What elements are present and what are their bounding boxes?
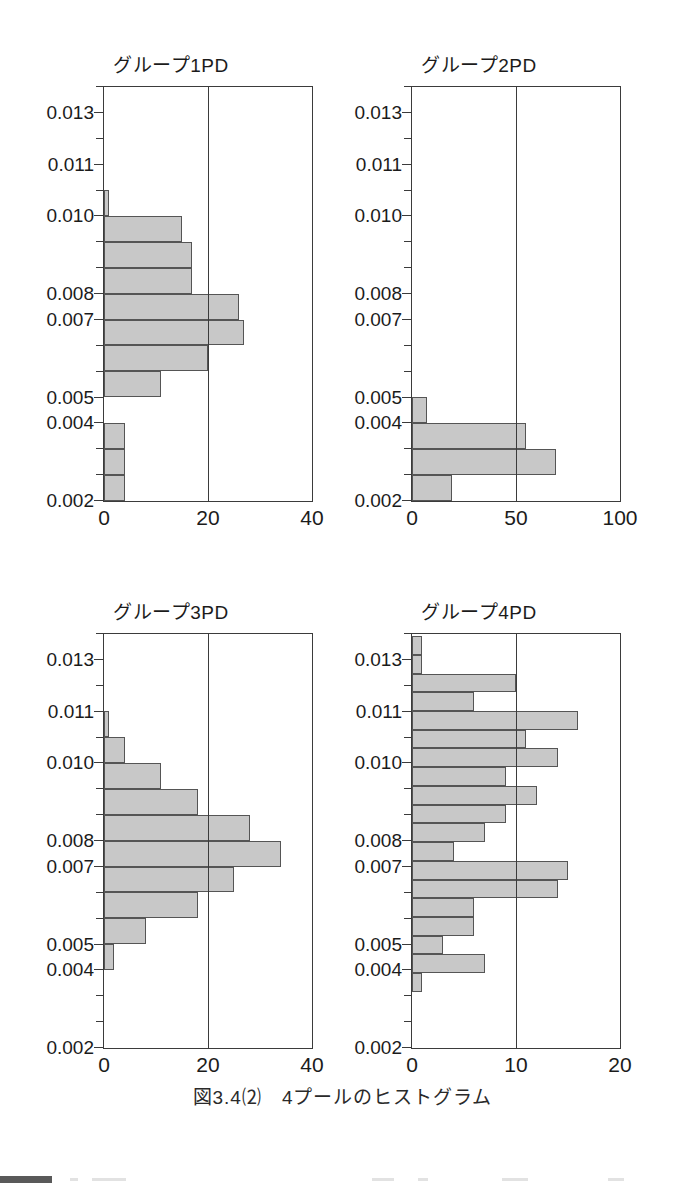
histogram-bar (412, 898, 474, 917)
y-tick-label-0.013: 0.013 (354, 102, 402, 121)
y-tick-mark-major (94, 164, 103, 165)
histogram-bar (412, 786, 537, 805)
y-tick-label-0.008: 0.008 (46, 284, 94, 303)
x-axis-group4: 01020 (411, 1049, 621, 1079)
y-tick-mark (96, 190, 103, 191)
y-tick-label-0.011: 0.011 (356, 701, 402, 720)
histogram-bar (412, 767, 506, 786)
x-tick-label-0: 0 (98, 1054, 110, 1075)
histogram-bar (412, 397, 427, 423)
y-tick-mark (404, 86, 411, 87)
histogram-bar (412, 823, 485, 842)
y-tick-mark (96, 633, 103, 634)
y-tick-label-0.002: 0.002 (354, 1038, 402, 1057)
y-tick-mark-major (402, 397, 411, 398)
histogram-bar (412, 748, 558, 767)
y-tick-mark-major (402, 659, 411, 660)
histogram-bar (412, 973, 422, 992)
histogram-bar (104, 815, 250, 841)
y-tick-mark-major (402, 164, 411, 165)
y-tick-mark-major (402, 969, 411, 970)
x-axis-group2: 050100 (411, 502, 621, 532)
histogram-bar (104, 867, 234, 893)
x-tick-label-0: 0 (406, 507, 418, 528)
x-axis-group1: 02040 (103, 502, 313, 532)
y-tick-label-0.010: 0.010 (46, 753, 94, 772)
y-tick-mark-major (402, 762, 411, 763)
y-tick-mark (404, 448, 411, 449)
plot-area-group4: 01020 0.0020.0040.0050.0070.0080.0100.01… (411, 633, 621, 1049)
gridline-x-20 (208, 86, 209, 502)
plot-area-group3: 02040 0.0020.0040.0050.0070.0080.0100.01… (103, 633, 313, 1049)
histogram-bar (412, 954, 485, 973)
y-tick-mark (96, 995, 103, 996)
y-tick-mark (96, 371, 103, 372)
y-tick-label-0.007: 0.007 (354, 856, 402, 875)
y-tick-mark (404, 474, 411, 475)
histogram-bar (412, 475, 452, 501)
histogram-bar (412, 842, 454, 861)
y-tick-mark (96, 267, 103, 268)
y-tick-label-0.010: 0.010 (354, 206, 402, 225)
y-tick-mark (404, 267, 411, 268)
histogram-bar (412, 636, 422, 655)
histogram-bar (104, 190, 109, 216)
y-tick-label-0.005: 0.005 (354, 934, 402, 953)
y-tick-mark-major (94, 969, 103, 970)
histogram-bar (104, 763, 161, 789)
y-tick-label-0.004: 0.004 (354, 960, 402, 979)
y-tick-label-0.004: 0.004 (46, 413, 94, 432)
histogram-bar (412, 711, 578, 730)
y-tick-label-0.011: 0.011 (48, 701, 94, 720)
histogram-bar (412, 423, 526, 449)
y-tick-mark-major (402, 944, 411, 945)
histogram-bar (104, 345, 208, 371)
y-tick-mark (96, 241, 103, 242)
x-tick-label-20: 20 (196, 507, 219, 528)
y-tick-mark (96, 685, 103, 686)
histogram-bar (104, 320, 244, 346)
y-tick-label-0.013: 0.013 (354, 649, 402, 668)
y-tick-mark-major (94, 762, 103, 763)
histogram-bar (104, 944, 114, 970)
y-tick-mark (404, 345, 411, 346)
gridline-x-50 (516, 86, 517, 502)
y-tick-label-0.005: 0.005 (354, 387, 402, 406)
y-tick-mark (404, 788, 411, 789)
histogram-bar (412, 861, 568, 880)
plot-area-group1: 02040 0.0020.0040.0050.0070.0080.0100.01… (103, 86, 313, 502)
y-tick-label-0.005: 0.005 (46, 387, 94, 406)
y-tick-label-0.005: 0.005 (46, 934, 94, 953)
y-tick-mark (96, 448, 103, 449)
y-tick-label-0.010: 0.010 (46, 206, 94, 225)
figure-caption: 図3.4⑵ 4プールのヒストグラム (0, 1082, 685, 1109)
y-tick-mark (96, 892, 103, 893)
y-tick-mark-major (402, 711, 411, 712)
y-tick-mark-major (402, 215, 411, 216)
y-tick-label-0.008: 0.008 (354, 831, 402, 850)
histogram-bar (104, 918, 146, 944)
y-tick-label-0.013: 0.013 (46, 649, 94, 668)
x-tick-label-0: 0 (98, 507, 110, 528)
y-tick-mark (96, 814, 103, 815)
y-tick-mark (96, 788, 103, 789)
histogram-bar (412, 655, 422, 674)
y-tick-mark-major (94, 944, 103, 945)
panel-title-group4: グループ4PD (308, 597, 650, 624)
histogram-bar (104, 371, 161, 397)
y-tick-mark-major (402, 840, 411, 841)
scan-smudge (92, 1178, 126, 1181)
histogram-bar (104, 789, 198, 815)
panel-title-group1: グループ1PD (0, 50, 342, 77)
histogram-bar (412, 449, 556, 475)
gridline-x-10 (516, 633, 517, 1049)
x-tick-label-0: 0 (406, 1054, 418, 1075)
histogram-bar (412, 674, 516, 693)
histogram-bar (104, 711, 109, 737)
histogram-bar (412, 730, 526, 749)
y-tick-label-0.007: 0.007 (46, 856, 94, 875)
y-tick-mark-major (94, 319, 103, 320)
y-tick-mark (404, 1021, 411, 1022)
y-tick-label-0.002: 0.002 (46, 1038, 94, 1057)
y-tick-label-0.008: 0.008 (46, 831, 94, 850)
